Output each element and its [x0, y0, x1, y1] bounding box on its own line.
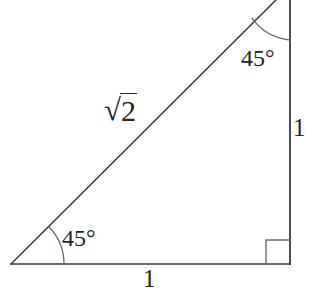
triangle-hypotenuse [11, 0, 290, 264]
angle-arc-top-right [252, 18, 290, 40]
base-side-length-label: 1 [143, 266, 156, 291]
vertical-side-length-label: 1 [293, 115, 306, 140]
angle-label-bottom-left: 45° [62, 226, 96, 250]
right-angle-marker [266, 240, 290, 264]
radicand-value: 2 [120, 93, 137, 126]
radical-sign-icon: √ [104, 94, 121, 125]
angle-label-top-right: 45° [241, 46, 275, 70]
hypotenuse-length-label: √ 2 [104, 93, 137, 126]
triangle-figure: √ 2 1 1 45° 45° [0, 0, 318, 306]
